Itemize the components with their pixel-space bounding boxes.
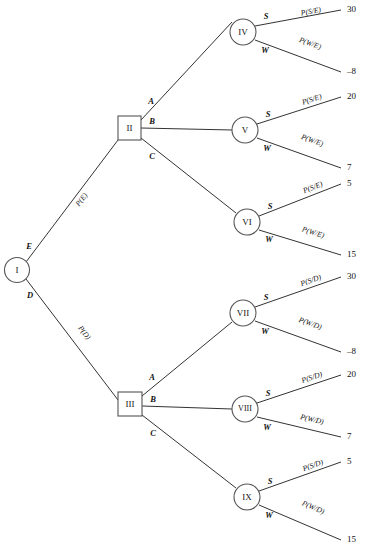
edge-letter-D: D — [26, 290, 33, 300]
payoff-IX-W: 15 — [347, 534, 357, 544]
edge-letter-III-B: B — [149, 394, 156, 404]
edge-letter-E: E — [25, 241, 32, 251]
payoff-VII-W: –8 — [346, 346, 357, 356]
edge-letter-VI-W: W — [265, 234, 274, 244]
payoff-IV-S: 30 — [347, 4, 357, 14]
decision-tree-diagram: I II III IV V VI VII VIII IX E D P(E) P(… — [0, 0, 367, 544]
node-IX-label: IX — [242, 492, 252, 502]
edge-letter-VIII-S: S — [266, 388, 271, 398]
node-III-label: III — [126, 399, 135, 409]
edge-letter-III-C: C — [150, 428, 156, 438]
node-I-label: I — [16, 265, 19, 275]
prob-label-VI-W: P(W/E) — [300, 224, 326, 240]
prob-label-IX-S: P(S/D) — [300, 457, 324, 473]
prob-label-VIII-S: P(S/D) — [299, 370, 323, 386]
payoff-VI-S: 5 — [347, 178, 352, 188]
prob-label-V-W: P(W/E) — [299, 132, 325, 149]
prob-label-VII-W: P(W/D) — [297, 315, 324, 332]
prob-label-PE: P(E) — [73, 191, 90, 209]
branch-line-III-VIII — [142, 406, 232, 409]
node-IV-label: IV — [238, 27, 248, 37]
edge-letter-V-S: S — [266, 109, 271, 119]
branch-line-II-V — [141, 128, 232, 130]
tree-canvas-svg: I II III IV V VI VII VIII IX E D P(E) P(… — [0, 0, 367, 544]
branch-line-II-IV — [141, 22, 232, 120]
edge-letter-VII-S: S — [264, 292, 269, 302]
branch-line-III-IX — [142, 415, 236, 488]
edge-letter-IV-S: S — [264, 11, 269, 21]
edge-letter-III-A: A — [148, 372, 155, 382]
node-V-label: V — [242, 125, 249, 135]
prob-label-VIII-W: P(W/D) — [299, 412, 325, 427]
payoff-VI-W: 15 — [347, 249, 357, 259]
branch-line-III-VII — [142, 322, 232, 396]
payoff-IV-W: –8 — [346, 66, 357, 76]
payoff-VIII-S: 20 — [347, 369, 357, 379]
payoff-IX-S: 5 — [347, 456, 352, 466]
prob-label-VII-S: P(S/D) — [298, 272, 322, 288]
edge-letter-II-A: A — [147, 96, 154, 106]
edge-letter-VIII-W: W — [263, 422, 272, 432]
prob-label-VI-S: P(S/E) — [301, 179, 324, 195]
edge-letter-VII-W: W — [261, 326, 270, 336]
branch-line-II-VI — [141, 138, 236, 213]
prob-label-V-S: P(S/E) — [300, 92, 323, 107]
prob-label-IV-S: P(S/E) — [299, 5, 322, 18]
edge-letter-IX-S: S — [268, 476, 273, 486]
node-VIII-label: VIII — [238, 404, 252, 413]
node-II-label: II — [127, 123, 133, 133]
prob-label-PD: P(D) — [76, 323, 93, 342]
node-VII-label: VII — [237, 308, 250, 318]
payoff-V-S: 20 — [347, 91, 357, 101]
node-VI-label: VI — [242, 217, 252, 227]
edge-letter-VI-S: S — [268, 201, 273, 211]
payoff-VII-S: 30 — [347, 271, 357, 281]
prob-label-IV-W: P(W/E) — [297, 35, 323, 52]
edge-letter-II-C: C — [149, 151, 155, 161]
edge-letter-IV-W: W — [261, 45, 270, 55]
branch-line-I-II — [26, 140, 118, 262]
edge-letter-V-W: W — [263, 143, 272, 153]
branch-line-I-III — [26, 279, 118, 400]
payoff-VIII-W: 7 — [347, 431, 352, 441]
prob-label-IX-W: P(W/D) — [300, 498, 327, 516]
edge-letter-II-B: B — [148, 116, 155, 126]
payoff-V-W: 7 — [347, 162, 352, 172]
